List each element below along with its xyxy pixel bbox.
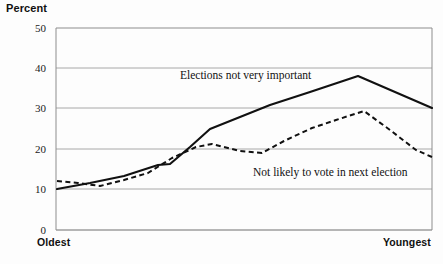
plot-frame <box>56 28 432 230</box>
chart-container: Percent 50 40 30 20 10 0 Elections not v… <box>0 0 443 264</box>
plot-area <box>0 0 443 264</box>
gridlines <box>56 28 432 230</box>
annotation-not-likely-to-vote: Not likely to vote in next election <box>253 166 408 178</box>
annotation-elections-not-very-important: Elections not very important <box>180 69 311 81</box>
x-axis-label-oldest: Oldest <box>37 236 70 248</box>
x-axis-label-youngest: Youngest <box>383 236 431 248</box>
